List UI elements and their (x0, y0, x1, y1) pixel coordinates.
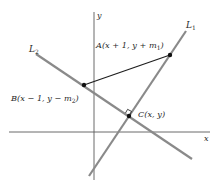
point-a (168, 53, 172, 57)
label-point-c: C(x, y) (138, 109, 165, 119)
x-axis-label: x (204, 134, 209, 143)
segment-ab (84, 55, 170, 85)
label-point-b: B(x − 1, y − m2) (10, 93, 79, 104)
diagram-canvas: x y L1 L2 A(x + 1, y + m1) B(x − 1, y − … (0, 0, 220, 188)
point-b (82, 83, 86, 87)
label-l2: L2 (28, 44, 39, 55)
label-l1: L1 (185, 20, 196, 31)
y-axis-label: y (96, 11, 102, 20)
line-l2 (36, 54, 192, 159)
label-point-a: A(x + 1, y + m1) (95, 40, 164, 51)
line-l1 (89, 31, 186, 176)
point-c (127, 114, 131, 118)
